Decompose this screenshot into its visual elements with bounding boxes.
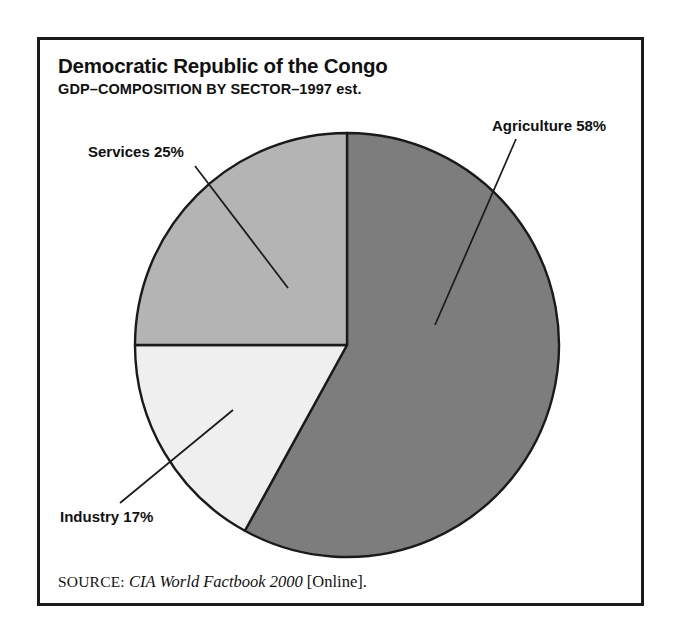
pie-label-industry: Industry 17% (60, 508, 153, 525)
chart-subtitle: GDP–COMPOSITION BY SECTOR–1997 est. (58, 81, 578, 97)
page-title: Democratic Republic of the Congo (58, 54, 578, 78)
pie-label-agriculture: Agriculture 58% (492, 117, 606, 134)
source-line: SOURCE: CIA World Factbook 2000 [Online]… (58, 572, 367, 592)
source-medium: [Online]. (307, 572, 367, 591)
source-title: CIA World Factbook 2000 (129, 572, 303, 591)
pie-label-services: Services 25% (88, 143, 184, 160)
figure-root: Democratic Republic of the Congo GDP–COM… (0, 0, 684, 643)
source-label: SOURCE: (58, 573, 125, 590)
title-block: Democratic Republic of the Congo GDP–COM… (58, 54, 578, 97)
